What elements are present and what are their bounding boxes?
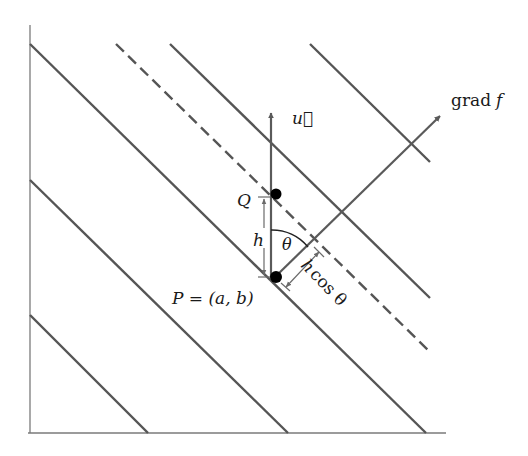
q-label: Q <box>237 190 251 210</box>
grad-f-arrow <box>275 116 440 277</box>
p-label: P = (a, b) <box>171 288 254 308</box>
level-curve-4 <box>170 44 430 298</box>
grad-f-label: f <box>494 90 505 110</box>
level-curve-1 <box>30 315 148 433</box>
point-q <box>271 189 282 200</box>
axes <box>28 25 446 433</box>
svg-text:cos θ: cos θ <box>306 264 351 310</box>
grad-label: grad <box>451 90 491 110</box>
h-label: h <box>253 230 264 250</box>
diagram-canvas: u⃗ grad f Q h θ P = (a, b) h cos θ <box>0 0 528 456</box>
u-vector-label: u⃗ <box>292 108 313 128</box>
level-curves <box>30 44 430 433</box>
theta-label: θ <box>282 235 292 254</box>
point-p <box>270 271 282 283</box>
h-cos-theta-label: h cos θ <box>297 255 351 310</box>
